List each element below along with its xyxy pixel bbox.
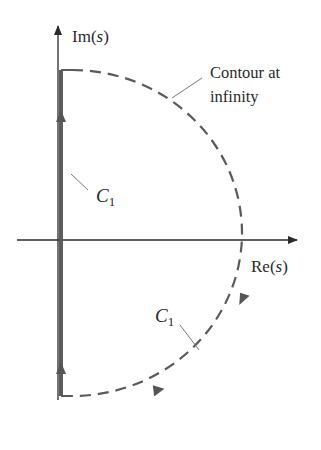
c1-lower-leader <box>180 325 199 350</box>
contour-at-infinity-label-line1: Contour at <box>210 63 281 82</box>
contour-at-infinity-label-line2: infinity <box>210 87 259 106</box>
c1-upper-label: C1 <box>96 185 115 209</box>
nyquist-contour-diagram: Im(s) Re(s) Contour at infinity C1 C1 <box>0 0 321 450</box>
clockwise-arrow-icon <box>236 293 249 308</box>
clockwise-arrow-icon <box>151 385 164 398</box>
contour-label-leader <box>172 78 202 98</box>
imaginary-axis-label: Im(s) <box>72 27 109 46</box>
real-axis-label: Re(s) <box>251 257 288 276</box>
c1-lower-label: C1 <box>155 305 174 329</box>
contour-at-infinity-arc <box>72 70 242 396</box>
c1-upper-leader <box>71 174 88 190</box>
